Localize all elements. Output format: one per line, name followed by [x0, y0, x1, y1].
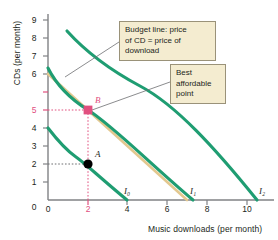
- x-tick-label-8: 8: [199, 204, 215, 214]
- data-point-b-label: B: [95, 95, 101, 105]
- budget-line-callout-line-2: of CD = price of: [125, 36, 211, 47]
- x-tick-label-2: 2: [80, 204, 96, 214]
- y-tick-label-3: 3: [26, 141, 42, 151]
- budget-line: [48, 74, 187, 200]
- data-point-a: [83, 159, 92, 168]
- y-axis-ticks: [43, 20, 48, 182]
- data-point-b: [84, 106, 93, 115]
- budget-line-callout-line-3: download: [125, 46, 211, 57]
- x-axis-title: Music downloads (per month): [148, 224, 262, 234]
- curve-label-i0: I₀: [124, 186, 130, 196]
- leader-line-budget: [65, 42, 119, 77]
- x-tick-label-4: 4: [119, 204, 135, 214]
- data-point-a-label: A: [95, 149, 101, 159]
- budget-line-callout-line-1: Budget line: price: [125, 25, 211, 36]
- y-tick-label-8: 8: [26, 33, 42, 43]
- y-tick-label-5: 5: [26, 105, 42, 115]
- y-tick-label-1: 1: [26, 177, 42, 187]
- curve-label-i2: I₂: [259, 186, 265, 196]
- curve-label-i1: I₁: [190, 186, 196, 196]
- x-tick-label-0: 0: [40, 204, 56, 214]
- x-tick-label-10: 10: [239, 204, 255, 214]
- x-tick-label-6: 6: [159, 204, 175, 214]
- y-axis-title: CDs (per month): [12, 17, 22, 89]
- y-tick-label-6: 6: [26, 69, 42, 79]
- budget-line-callout: Budget line: price of CD = price of down…: [119, 21, 216, 61]
- best-affordable-point-callout: Best affordable point: [170, 64, 226, 104]
- y-tick-label-7: 7: [26, 51, 42, 61]
- chart-figure: 9 8 7 6 5 4 3 2 1 0 0 2 4 6 8 10 CDs (pe…: [0, 0, 278, 240]
- y-tick-label-2: 2: [26, 159, 42, 169]
- best-affordable-point-callout-line-2: affordable: [176, 79, 221, 90]
- best-affordable-point-callout-line-1: Best: [176, 68, 221, 79]
- y-tick-label-4: 4: [26, 123, 42, 133]
- y-tick-label-9: 9: [26, 15, 42, 25]
- best-affordable-point-callout-line-3: point: [176, 89, 221, 100]
